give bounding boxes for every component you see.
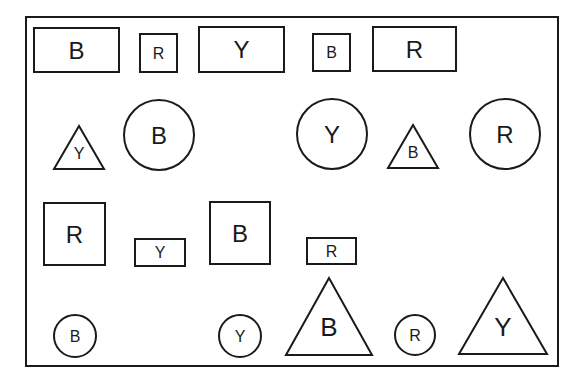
shape-label: R — [66, 221, 83, 248]
shape-label: Y — [324, 121, 340, 148]
shape-label: B — [68, 37, 84, 64]
circle-r-shape: R — [470, 99, 540, 169]
circle-y-shape: Y — [219, 315, 261, 357]
triangle-y-shape: Y — [54, 126, 104, 169]
rect-r-shape: R — [140, 34, 177, 72]
circle-y-shape: Y — [297, 99, 367, 169]
shapes-diagram: BRYBRYBYBRRYBRBYBRY — [0, 0, 587, 386]
shape-label: R — [326, 243, 338, 260]
rect-r-shape: R — [44, 203, 105, 265]
shape-label: Y — [155, 244, 166, 261]
triangle-y-shape: Y — [459, 278, 547, 354]
shapes-layer: BRYBRYBYBRRYBRBYBRY — [34, 27, 547, 357]
rect-b-shape: B — [34, 28, 119, 72]
shape-label: Y — [233, 36, 249, 63]
shape-label: Y — [235, 328, 246, 345]
shape-label: Y — [494, 312, 511, 342]
triangle-b-shape: B — [286, 278, 372, 355]
rect-b-shape: B — [210, 202, 270, 264]
rect-y-shape: Y — [135, 239, 185, 266]
circle-r-shape: R — [395, 315, 435, 355]
rect-r-shape: R — [373, 27, 456, 71]
shape-label: B — [151, 122, 167, 149]
shape-label: B — [326, 44, 337, 61]
shape-label: R — [496, 121, 513, 148]
rect-y-shape: Y — [199, 27, 284, 72]
shape-label: Y — [74, 145, 85, 162]
shape-label: B — [70, 328, 81, 345]
rect-b-shape: B — [313, 34, 350, 71]
triangle-b-shape: B — [388, 125, 438, 168]
shape-label: R — [409, 327, 421, 344]
shape-label: B — [320, 312, 337, 342]
shape-label: B — [232, 220, 248, 247]
shape-label: B — [408, 144, 419, 161]
shape-label: R — [153, 45, 165, 62]
rect-r-shape: R — [307, 238, 356, 264]
shape-label: R — [406, 36, 423, 63]
circle-b-shape: B — [54, 315, 96, 357]
circle-b-shape: B — [124, 100, 194, 170]
